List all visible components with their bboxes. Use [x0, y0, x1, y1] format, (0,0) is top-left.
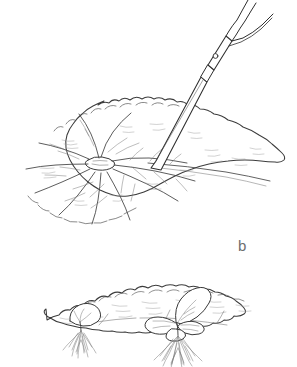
knife-rivet	[213, 54, 218, 59]
botanical-illustration	[0, 0, 297, 367]
plantlet-right-leaf-4	[166, 329, 186, 341]
figure-canvas	[0, 0, 297, 367]
panel-label-b: b	[238, 238, 246, 253]
